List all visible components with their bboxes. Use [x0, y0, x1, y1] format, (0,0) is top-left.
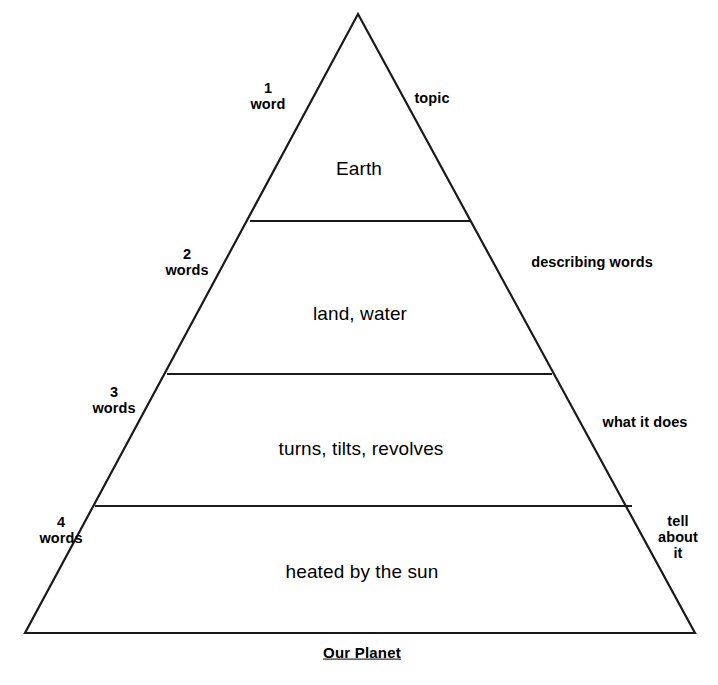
- level-4-left-label: 4 words: [39, 514, 82, 546]
- level-3-left-label: 3 words: [92, 384, 135, 416]
- level-4-right-label: tell about it: [658, 513, 698, 562]
- level-4-content: heated by the sun: [286, 561, 439, 582]
- level-1-right-label: topic: [414, 90, 449, 106]
- level-2-left-label: 2 words: [165, 246, 208, 278]
- pyramid-caption: Our Planet: [323, 645, 401, 662]
- level-1-left-label: 1 word: [250, 80, 285, 112]
- level-1-content: Earth: [336, 158, 382, 179]
- level-3-content: turns, tilts, revolves: [279, 438, 444, 459]
- level-2-right-label: describing words: [531, 254, 653, 270]
- diagram-canvas: 1 word topic Earth 2 words describing wo…: [0, 0, 718, 685]
- level-2-content: land, water: [313, 303, 407, 324]
- level-3-right-label: what it does: [603, 414, 688, 430]
